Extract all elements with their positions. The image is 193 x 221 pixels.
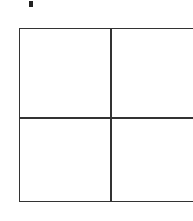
corner-mark [29,1,33,7]
grid-2x2 [19,28,193,202]
cell-r1c2 [112,29,193,117]
cell-r2c2 [112,119,193,203]
cell-r2c1 [20,119,110,203]
cell-r1c1 [20,29,110,117]
